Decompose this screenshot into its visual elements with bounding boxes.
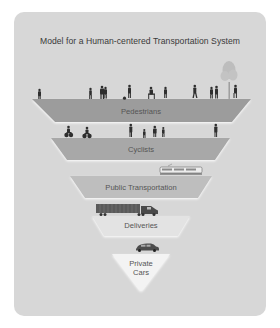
tier-public-transportation: Public Transportation	[70, 164, 212, 198]
tier-deliveries-label: Deliveries	[124, 221, 158, 230]
cyclists-icon	[64, 124, 217, 139]
tier-cyclists: Cyclists	[51, 124, 230, 160]
truck-icon	[96, 204, 158, 216]
tier-pedestrians-label: Pedestrians	[121, 107, 161, 116]
transportation-pyramid: Pedestrians Cyclists	[0, 0, 280, 328]
car-icon	[136, 244, 159, 253]
tier-private-cars-label-line2: Cars	[133, 268, 149, 277]
tier-pedestrians: Pedestrians	[32, 61, 251, 122]
tier-cyclists-label: Cyclists	[128, 145, 154, 154]
tier-private-cars: Private Cars	[112, 244, 170, 291]
tier-public-transportation-label: Public Transportation	[105, 183, 176, 192]
tier-private-cars-label-line1: Private	[129, 259, 153, 268]
tier-deliveries: Deliveries	[92, 204, 190, 236]
tram-icon	[160, 164, 202, 175]
pedestrians-icon	[38, 85, 237, 100]
